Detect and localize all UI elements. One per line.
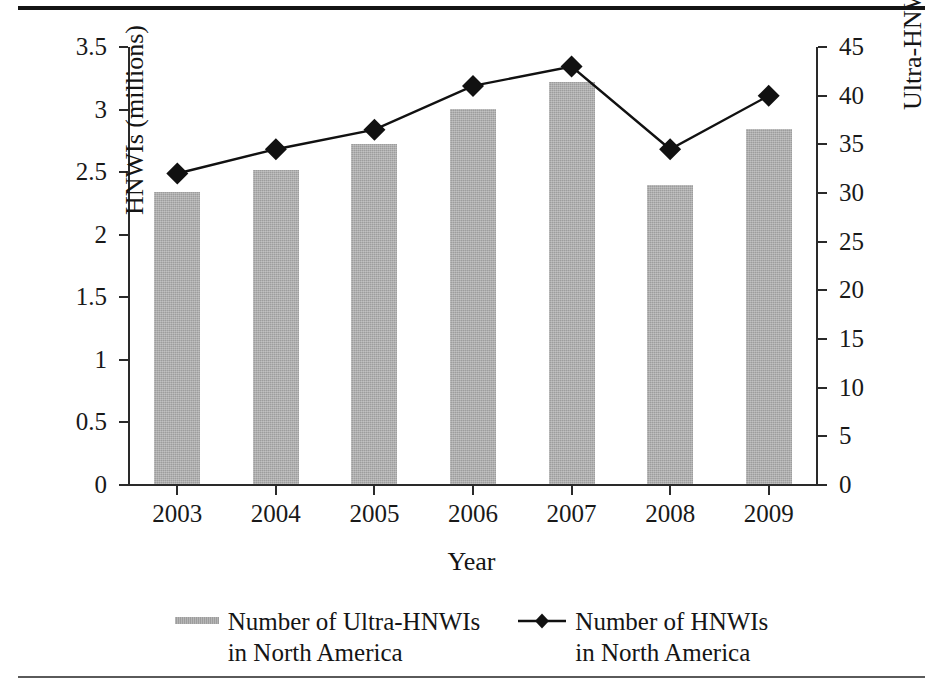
line-marker-2004 [265,138,287,160]
right-tick-mark [818,192,827,194]
line-marker-2003 [166,163,188,185]
x-axis-title: Year [0,547,943,577]
right-tick-label: 40 [839,83,864,108]
chart-legend: Number of Ultra-HNWIs in North America N… [0,606,943,668]
legend-label-hnwis: Number of HNWIs in North America [575,606,768,668]
right-axis-title: Ultra-HNWIs (thousands) [898,0,928,110]
line-series [128,47,818,485]
bar-swatch-icon [175,617,219,624]
right-tick-mark [818,143,827,145]
x-tick-mark [669,486,671,495]
line-marker-2009 [758,85,780,107]
left-tick-label: 1.5 [76,284,107,309]
right-tick-label: 30 [839,180,864,205]
chart-figure: 00.511.522.533.5 051015202530354045 2003… [0,0,943,695]
left-tick-label: 0 [95,472,108,497]
right-tick-mark [818,484,827,486]
x-tick-mark [373,486,375,495]
left-tick-mark [119,421,128,423]
left-tick-label: 1 [95,347,108,372]
left-tick-label: 2 [95,222,108,247]
top-divider-rule [18,6,925,10]
right-tick-label: 5 [839,423,852,448]
right-tick-label: 45 [839,34,864,59]
left-tick-mark [119,296,128,298]
legend-label-ultra-hnwis: Number of Ultra-HNWIs in North America [228,606,481,668]
left-tick-label: 3.5 [76,34,107,59]
plot-area: 00.511.522.533.5 051015202530354045 2003… [128,47,818,485]
right-tick-mark [818,387,827,389]
line-marker-2005 [363,119,385,141]
right-tick-label: 0 [839,472,852,497]
left-axis-title: HNWIs (millions) [120,25,150,215]
left-tick-label: 2.5 [76,159,107,184]
line-marker-2006 [462,75,484,97]
x-tick-mark [768,486,770,495]
left-tick-mark [119,359,128,361]
x-tick-label-2009: 2009 [709,501,829,526]
line-diamond-swatch-icon [518,610,566,632]
right-tick-mark [818,95,827,97]
right-tick-mark [818,435,827,437]
x-tick-mark [571,486,573,495]
right-tick-mark [818,46,827,48]
right-tick-label: 35 [839,131,864,156]
bottom-divider-rule [18,676,925,678]
right-tick-mark [818,289,827,291]
right-tick-label: 20 [839,277,864,302]
x-tick-mark [176,486,178,495]
right-tick-label: 25 [839,229,864,254]
left-tick-label: 0.5 [76,409,107,434]
left-tick-label: 3 [95,97,108,122]
left-tick-mark [119,484,128,486]
left-tick-mark [119,234,128,236]
x-tick-mark [275,486,277,495]
right-tick-label: 10 [839,375,864,400]
right-tick-label: 15 [839,326,864,351]
legend-item-hnwis: Number of HNWIs in North America [518,606,768,668]
x-tick-mark [472,486,474,495]
right-tick-mark [818,241,827,243]
right-tick-mark [818,338,827,340]
legend-item-ultra-hnwis: Number of Ultra-HNWIs in North America [175,606,481,668]
